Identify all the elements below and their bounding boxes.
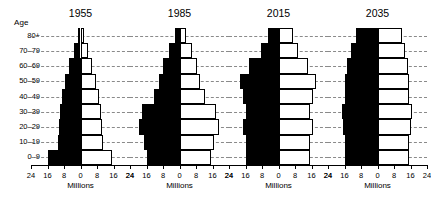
- center-axis-line: [81, 28, 82, 165]
- x-axis-tick: [31, 165, 32, 169]
- x-axis-tick: [394, 165, 395, 169]
- bar-female: [279, 135, 311, 150]
- pyramid-panel-1985: 198524168081624Millions: [130, 5, 229, 201]
- bar-female: [279, 89, 313, 104]
- bar-female: [279, 74, 316, 89]
- plot-area: [229, 28, 328, 165]
- bar-male: [69, 58, 80, 73]
- age-axis-title: Age: [14, 18, 29, 27]
- x-axis-tick: [295, 165, 296, 169]
- bar-male: [58, 135, 81, 150]
- x-axis-tick: [361, 165, 362, 169]
- bar-male: [163, 58, 180, 73]
- x-tick-label: 16: [406, 171, 414, 180]
- bar-female: [81, 104, 102, 119]
- x-axis-title: Millions: [31, 181, 130, 191]
- bar-male: [345, 74, 378, 89]
- x-tick-label: 8: [161, 171, 165, 180]
- x-axis-tick: [328, 165, 329, 169]
- x-axis-tick: [64, 165, 65, 169]
- plot-area: [130, 28, 229, 165]
- x-tick-label: 16: [109, 171, 117, 180]
- x-tick-label: 0: [78, 171, 82, 180]
- bar-female: [279, 104, 311, 119]
- x-axis-tick: [229, 165, 230, 169]
- x-axis-title: Millions: [229, 181, 328, 191]
- x-axis-tick: [163, 165, 164, 169]
- bar-male: [343, 119, 377, 134]
- pyramid-panel-2015: 201524168081624Millions: [229, 5, 328, 201]
- bar-female: [378, 104, 412, 119]
- bar-female: [180, 58, 198, 73]
- bar-female: [279, 28, 293, 43]
- x-axis-tick: [213, 165, 214, 169]
- bar-female: [279, 150, 311, 165]
- bar-male: [243, 119, 278, 134]
- bar-male: [240, 74, 278, 89]
- x-tick-label: 8: [194, 171, 198, 180]
- x-axis-tick: [81, 165, 82, 169]
- bar-female: [81, 74, 97, 89]
- x-axis-tick: [312, 165, 313, 169]
- bar-female: [180, 150, 212, 165]
- panel-title: 1985: [130, 7, 229, 19]
- bar-female: [180, 43, 192, 58]
- x-tick-label: 16: [43, 171, 51, 180]
- bar-male: [48, 150, 81, 165]
- bar-male: [142, 104, 179, 119]
- center-axis-line: [378, 28, 379, 165]
- x-tick-label: 8: [359, 171, 363, 180]
- bar-female: [180, 74, 201, 89]
- x-axis-tick: [147, 165, 148, 169]
- x-axis-tick: [246, 165, 247, 169]
- bar-male: [351, 43, 378, 58]
- x-axis-title: Millions: [328, 181, 427, 191]
- x-tick-label: 24: [423, 171, 431, 180]
- panel-title: 1955: [31, 7, 130, 19]
- x-tick-label: 24: [126, 171, 134, 180]
- bar-female: [81, 135, 103, 150]
- bar-female: [378, 43, 406, 58]
- x-tick-label: 8: [293, 171, 297, 180]
- bar-male: [65, 74, 80, 89]
- plot-area: [31, 28, 130, 165]
- bar-male: [246, 104, 279, 119]
- pyramid-panel-1955: 195524168081624Millions: [31, 5, 130, 201]
- bar-female: [81, 89, 100, 104]
- bar-male: [243, 89, 278, 104]
- bar-male: [62, 89, 81, 104]
- bar-female: [378, 135, 410, 150]
- x-tick-label: 8: [392, 171, 396, 180]
- x-axis-tick: [180, 165, 181, 169]
- pyramid-panel-2035: 203524168081624Millions: [328, 5, 427, 201]
- x-axis-tick: [411, 165, 412, 169]
- bar-male: [345, 150, 378, 165]
- x-tick-label: 8: [62, 171, 66, 180]
- bar-male: [246, 150, 279, 165]
- bar-female: [378, 58, 409, 73]
- bar-female: [180, 104, 216, 119]
- bar-female: [180, 89, 206, 104]
- bar-male: [342, 104, 377, 119]
- x-tick-label: 16: [340, 171, 348, 180]
- bar-male: [147, 150, 180, 165]
- x-tick-label: 24: [324, 171, 332, 180]
- x-tick-label: 8: [260, 171, 264, 180]
- bar-male: [139, 119, 179, 134]
- x-axis-tick: [48, 165, 49, 169]
- bar-female: [81, 58, 93, 73]
- bar-female: [378, 119, 411, 134]
- bar-male: [154, 89, 180, 104]
- bar-male: [347, 58, 378, 73]
- x-tick-label: 0: [276, 171, 280, 180]
- bar-female: [279, 58, 309, 73]
- x-tick-label: 8: [95, 171, 99, 180]
- x-axis-tick: [427, 165, 428, 169]
- x-tick-label: 0: [375, 171, 379, 180]
- x-tick-label: 16: [142, 171, 150, 180]
- bar-male: [356, 28, 378, 43]
- panel-title: 2015: [229, 7, 328, 19]
- bar-female: [180, 119, 219, 134]
- x-tick-label: 16: [241, 171, 249, 180]
